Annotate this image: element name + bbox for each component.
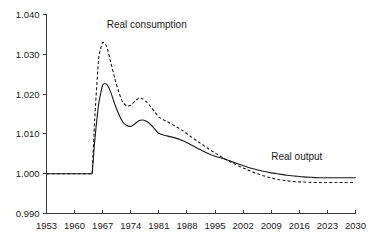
annotation-real-output: Real output xyxy=(271,151,322,162)
x-tick-label: 1974 xyxy=(120,220,141,231)
x-tick-label: 2030 xyxy=(345,220,366,231)
x-tick-label: 1967 xyxy=(92,220,113,231)
x-tick-label: 1981 xyxy=(148,220,169,231)
y-tick-label: 1.030 xyxy=(16,49,40,60)
y-tick-label: 1.000 xyxy=(16,168,40,179)
y-tick-label: 1.040 xyxy=(16,9,40,20)
y-tick-label: 0.990 xyxy=(16,208,40,219)
x-tick-label: 2009 xyxy=(261,220,282,231)
annotation-real-consumption: Real consumption xyxy=(107,19,187,30)
chart-container: 0.9901.0001.0101.0201.0301.040 195319601… xyxy=(0,0,371,251)
y-tick-label: 1.010 xyxy=(16,128,40,139)
y-tick-label: 1.020 xyxy=(16,89,40,100)
x-tick-label: 1988 xyxy=(176,220,197,231)
x-tick-label: 2023 xyxy=(317,220,338,231)
x-tick-label: 1995 xyxy=(204,220,225,231)
line-chart: 0.9901.0001.0101.0201.0301.040 195319601… xyxy=(0,0,371,251)
x-tick-label: 2002 xyxy=(233,220,254,231)
x-tick-label: 1953 xyxy=(36,220,57,231)
x-tick-label: 1960 xyxy=(64,220,85,231)
x-tick-label: 2016 xyxy=(289,220,310,231)
